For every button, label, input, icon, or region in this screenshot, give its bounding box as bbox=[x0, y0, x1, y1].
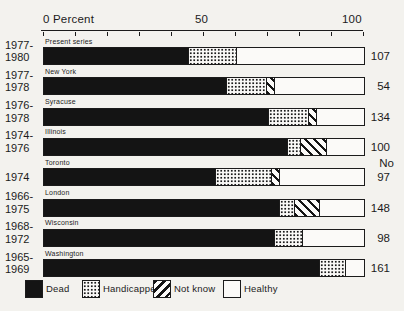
segment-handicapped bbox=[188, 48, 236, 64]
axis-tick-80 bbox=[299, 32, 300, 36]
row-study-label: Present series bbox=[45, 38, 93, 45]
segment-healthy bbox=[279, 169, 364, 185]
axis-tick-20 bbox=[107, 32, 108, 36]
segment-dead bbox=[44, 169, 215, 185]
segment-not_know bbox=[300, 139, 326, 155]
segment-handicapped bbox=[274, 230, 301, 246]
legend-label-not_know: Not know bbox=[174, 283, 215, 294]
segment-not_know bbox=[308, 109, 316, 125]
row-study-label: London bbox=[45, 189, 70, 196]
segment-healthy bbox=[236, 48, 364, 64]
legend-swatch-dead bbox=[25, 280, 43, 298]
legend-swatch-healthy bbox=[223, 280, 241, 298]
stacked-bar-syracuse bbox=[43, 108, 365, 126]
row-study-label: Syracuse bbox=[45, 98, 76, 105]
row-n-value: 161 bbox=[364, 262, 390, 274]
row-years-label: 1974 bbox=[5, 171, 43, 184]
segment-healthy bbox=[316, 109, 364, 125]
axis-tick-60 bbox=[235, 32, 236, 36]
stacked-bar-present-series bbox=[43, 47, 365, 65]
row-n-value: 148 bbox=[364, 202, 390, 214]
row-n-value: 98 bbox=[364, 232, 390, 244]
axis-tick-0 bbox=[43, 32, 44, 36]
axis-label-50: 50 bbox=[195, 13, 208, 25]
segment-dead bbox=[44, 78, 226, 94]
row-n-value: 97 bbox=[364, 171, 390, 183]
segment-dead bbox=[44, 260, 319, 276]
row-years-label: 1965-1969 bbox=[5, 251, 43, 276]
axis-label-100: 100 bbox=[342, 13, 362, 25]
segment-dead bbox=[44, 109, 268, 125]
segment-healthy bbox=[319, 200, 364, 216]
stacked-bar-washington bbox=[43, 259, 365, 277]
legend-label-dead: Dead bbox=[46, 283, 70, 294]
row-study-label: Illinois bbox=[45, 128, 66, 135]
segment-dead bbox=[44, 139, 287, 155]
segment-healthy bbox=[326, 139, 364, 155]
row-years-label: 1976-1978 bbox=[5, 99, 43, 124]
segment-not_know bbox=[271, 169, 279, 185]
row-years-label: 1977-1978 bbox=[5, 69, 43, 94]
segment-handicapped bbox=[268, 109, 308, 125]
row-n-value: 100 bbox=[364, 141, 390, 153]
legend-label-healthy: Healthy bbox=[244, 283, 278, 294]
segment-healthy bbox=[274, 78, 364, 94]
stacked-bar-london bbox=[43, 199, 365, 217]
axis-tick-10 bbox=[75, 32, 76, 36]
axis-tick-90 bbox=[331, 32, 332, 36]
axis-tick-50 bbox=[203, 32, 204, 36]
stacked-bar-new-york bbox=[43, 77, 365, 95]
row-years-label: 1966-1975 bbox=[5, 190, 43, 215]
axis-tick-40 bbox=[171, 32, 172, 36]
row-years-label: 1968-1972 bbox=[5, 220, 43, 245]
segment-handicapped bbox=[319, 260, 345, 276]
segment-healthy bbox=[345, 260, 364, 276]
row-study-label: New York bbox=[45, 68, 76, 75]
row-years-label: 1977-1980 bbox=[5, 39, 43, 64]
stacked-bar-illinois bbox=[43, 138, 365, 156]
row-study-label: Wisconsin bbox=[45, 219, 79, 226]
segment-handicapped bbox=[279, 200, 293, 216]
axis-label-zero-percent: 0 Percent bbox=[43, 13, 94, 25]
row-n-value: 54 bbox=[364, 80, 390, 92]
stacked-bar-wisconsin bbox=[43, 229, 365, 247]
row-study-label: Toronto bbox=[45, 159, 70, 166]
legend-swatch-not_know bbox=[153, 280, 171, 298]
legend-swatch-handicapped bbox=[82, 280, 100, 298]
row-years-label: 1974-1976 bbox=[5, 129, 43, 154]
segment-dead bbox=[44, 48, 188, 64]
stacked-bar-toronto bbox=[43, 168, 365, 186]
n-column-header: No bbox=[368, 157, 394, 169]
axis-tick-30 bbox=[139, 32, 140, 36]
row-n-value: 134 bbox=[364, 111, 390, 123]
row-study-label: Washington bbox=[45, 250, 84, 257]
segment-handicapped bbox=[226, 78, 266, 94]
segment-dead bbox=[44, 230, 274, 246]
segment-dead bbox=[44, 200, 279, 216]
survival-outcome-stacked-bar-chart: 0 Percent 50 100 No 1977-1980Present ser… bbox=[0, 0, 404, 311]
segment-handicapped bbox=[215, 169, 271, 185]
segment-healthy bbox=[302, 230, 364, 246]
segment-not_know bbox=[294, 200, 320, 216]
segment-handicapped bbox=[287, 139, 300, 155]
axis-tick-70 bbox=[267, 32, 268, 36]
axis-tick-100 bbox=[363, 32, 364, 36]
row-n-value: 107 bbox=[364, 50, 390, 62]
axis-line bbox=[41, 30, 363, 31]
segment-not_know bbox=[266, 78, 274, 94]
